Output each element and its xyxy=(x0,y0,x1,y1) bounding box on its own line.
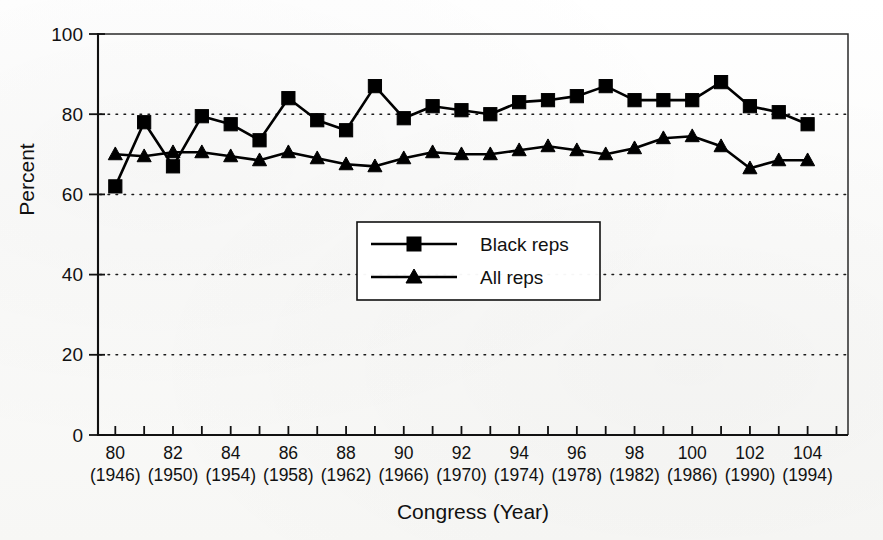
y-axis-title: Percent xyxy=(15,143,38,216)
datapoint-1-95 xyxy=(541,139,555,152)
legend-label-1: All reps xyxy=(480,267,543,288)
x-tick-label-congress-82: 82 xyxy=(163,443,182,463)
x-tick-label-year-80: (1946) xyxy=(90,465,141,485)
series-black-reps xyxy=(109,76,815,193)
datapoint-0-86 xyxy=(282,92,295,105)
datapoint-0-93 xyxy=(484,108,497,121)
x-tick-label-year-82: (1950) xyxy=(148,465,199,485)
datapoint-0-100 xyxy=(686,94,699,107)
datapoint-0-85 xyxy=(253,134,266,147)
series-path-0 xyxy=(115,82,807,186)
series-all-reps xyxy=(108,129,814,174)
datapoint-0-104 xyxy=(801,118,814,131)
datapoint-1-91 xyxy=(426,145,440,158)
x-tick-label-year-98: (1982) xyxy=(609,465,660,485)
y-tick-label-0: 0 xyxy=(72,425,83,446)
x-tick-label-year-86: (1958) xyxy=(263,465,314,485)
x-axis-title: Congress (Year) xyxy=(397,500,549,523)
datapoint-0-103 xyxy=(772,106,785,119)
x-tick-label-congress-100: 100 xyxy=(678,443,707,463)
legend-label-0: Black reps xyxy=(480,234,569,255)
chart-legend: Black repsAll reps xyxy=(357,222,600,300)
x-tick-label-congress-90: 90 xyxy=(394,443,414,463)
datapoint-0-98 xyxy=(628,94,641,107)
datapoint-0-99 xyxy=(657,94,670,107)
datapoint-0-97 xyxy=(599,80,612,93)
x-tick-label-year-102: (1990) xyxy=(725,465,776,485)
datapoint-0-81 xyxy=(138,116,151,129)
x-tick-label-year-90: (1966) xyxy=(378,465,429,485)
x-tick-label-year-100: (1986) xyxy=(667,465,718,485)
x-tick-label-congress-96: 96 xyxy=(567,443,586,463)
x-tick-label-year-104: (1994) xyxy=(782,465,833,485)
datapoint-0-92 xyxy=(455,104,468,117)
datapoint-0-87 xyxy=(311,114,324,127)
x-tick-label-year-84: (1954) xyxy=(205,465,256,485)
chart-figure: 02040608010080(1946)82(1950)84(1954)86(1… xyxy=(0,0,883,540)
y-tick-label-20: 20 xyxy=(62,344,83,365)
datapoint-0-96 xyxy=(570,90,583,103)
x-tick-label-year-88: (1962) xyxy=(321,465,372,485)
x-tick-label-congress-84: 84 xyxy=(221,443,241,463)
datapoint-0-95 xyxy=(541,94,554,107)
y-tick-label-60: 60 xyxy=(62,184,83,205)
datapoint-1-80 xyxy=(108,147,122,160)
datapoint-0-84 xyxy=(224,118,237,131)
x-tick-label-congress-104: 104 xyxy=(793,443,822,463)
datapoint-0-90 xyxy=(397,112,410,125)
y-tick-label-80: 80 xyxy=(62,104,83,125)
datapoint-0-101 xyxy=(714,76,727,89)
x-tick-label-year-94: (1974) xyxy=(494,465,545,485)
x-tick-label-congress-92: 92 xyxy=(452,443,471,463)
datapoint-0-83 xyxy=(195,110,208,123)
x-tick-label-year-92: (1970) xyxy=(436,465,487,485)
datapoint-0-94 xyxy=(513,96,526,109)
datapoint-0-80 xyxy=(109,180,122,193)
datapoint-0-88 xyxy=(339,124,352,137)
x-tick-label-congress-102: 102 xyxy=(735,443,764,463)
datapoint-1-86 xyxy=(281,145,295,158)
datapoint-0-89 xyxy=(368,80,381,93)
y-tick-label-40: 40 xyxy=(62,264,83,285)
datapoint-0-82 xyxy=(166,160,179,173)
x-tick-label-congress-86: 86 xyxy=(279,443,298,463)
datapoint-0-91 xyxy=(426,100,439,113)
line-chart: 02040608010080(1946)82(1950)84(1954)86(1… xyxy=(0,0,883,540)
x-tick-label-congress-98: 98 xyxy=(625,443,644,463)
x-tick-label-congress-94: 94 xyxy=(509,443,529,463)
x-tick-label-congress-88: 88 xyxy=(336,443,355,463)
legend-marker-square xyxy=(407,237,421,251)
datapoint-0-102 xyxy=(743,100,756,113)
x-tick-label-year-96: (1978) xyxy=(552,465,603,485)
x-tick-label-congress-80: 80 xyxy=(106,443,126,463)
y-tick-label-100: 100 xyxy=(51,24,83,45)
